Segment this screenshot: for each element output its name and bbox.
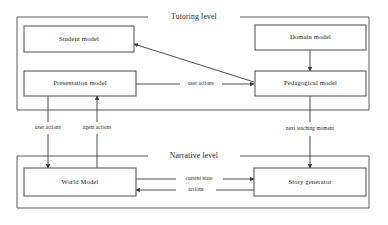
connector-pedagogical-to-student — [134, 44, 254, 82]
actions-label: actions — [188, 186, 203, 192]
agent-actions-label: agent actions — [83, 124, 112, 130]
diagram-canvas: Tutoring level Narrative level — [0, 0, 388, 225]
story-generator-label: Story generator — [288, 178, 332, 185]
edge-label-next-teaching-moment: next teaching moment — [286, 125, 335, 131]
current-state-label: current state — [186, 175, 213, 181]
student-model-label: Student model — [59, 35, 99, 42]
node-presentation-model[interactable]: Presentation model — [24, 71, 136, 96]
node-world-model[interactable]: World Model — [24, 168, 136, 196]
domain-model-label: Domain model — [290, 33, 331, 40]
node-student-model[interactable]: Student model — [24, 26, 134, 52]
node-domain-model[interactable]: Domain model — [255, 25, 366, 50]
node-story-generator[interactable]: Story generator — [254, 168, 366, 196]
node-pedagogical-model[interactable]: Pedagogical model — [255, 71, 366, 96]
edge-label-actions: actions — [188, 186, 203, 192]
edge-label-user-actions-down: user actions — [35, 124, 61, 130]
narrative-level-title: Narrative level — [170, 151, 218, 160]
next-teaching-moment-label: next teaching moment — [286, 125, 335, 131]
pedagogical-model-label: Pedagogical model — [284, 79, 337, 86]
user-actions-down-label: user actions — [35, 124, 61, 130]
tutoring-level-title: Tutoring level — [171, 12, 217, 21]
presentation-model-label: Presentation model — [53, 79, 106, 86]
user-actions-top-label: user actions — [188, 80, 214, 86]
edge-label-current-state: current state — [186, 175, 213, 181]
world-model-label: World Model — [62, 178, 99, 185]
edge-label-agent-actions: agent actions — [83, 124, 112, 130]
edge-label-user-actions-top: user actions — [188, 80, 214, 86]
architecture-diagram: Tutoring level Narrative level — [0, 0, 388, 225]
